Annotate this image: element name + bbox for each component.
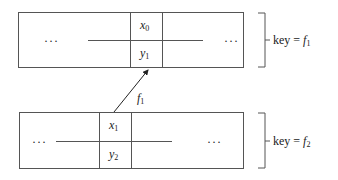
bottom-right-ellipsis: ···: [207, 135, 222, 150]
top-key-label: key = f1: [273, 34, 310, 50]
top-right-ellipsis: ···: [224, 34, 239, 49]
top-brace: [258, 13, 270, 67]
bottom-cell-x1: x1: [109, 119, 118, 135]
diagram-canvas: [0, 0, 338, 180]
bottom-cell-y2: y2: [109, 148, 118, 164]
bottom-brace: [258, 113, 270, 168]
top-left-ellipsis: ···: [44, 34, 59, 49]
bottom-key-label: key = f2: [273, 135, 310, 151]
top-cell-y1: y1: [140, 47, 149, 63]
bottom-left-ellipsis: ···: [32, 135, 47, 150]
arrow-label-f1: f1: [137, 92, 144, 108]
top-cell-x0: x0: [140, 19, 149, 35]
